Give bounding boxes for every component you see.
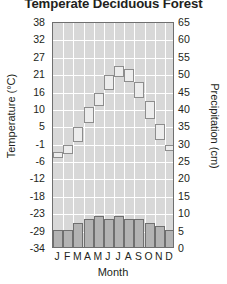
temperature-tick-label: 38 [33, 17, 45, 28]
month-label: S [133, 251, 143, 263]
precipitation-bar [165, 230, 174, 247]
precipitation-bar [84, 219, 94, 247]
temperature-tick-label: 5 [39, 121, 45, 132]
temperature-tick-label: 32 [33, 34, 45, 45]
month-label: J [52, 251, 62, 263]
temperature-tick-label: -1 [36, 139, 45, 150]
y-axis-title-precipitation: Precipitation (cm) [209, 66, 221, 186]
precipitation-tick-label: 55 [178, 52, 190, 63]
precipitation-bar [145, 223, 155, 247]
precipitation-tick-label: 5 [178, 226, 184, 237]
month-label: J [103, 251, 113, 263]
precipitation-bar [73, 223, 83, 247]
month-label: J [113, 251, 123, 263]
precipitation-bar [114, 216, 124, 247]
x-axis-title: Month [52, 266, 174, 278]
month-axis-labels: JFMAMJJASOND [52, 251, 174, 265]
precipitation-bar [124, 219, 134, 247]
temperature-tick-label: 27 [33, 52, 45, 63]
temperature-tick-label: -29 [30, 226, 45, 237]
precipitation-tick-label: 10 [178, 208, 190, 219]
month-label: F [62, 251, 72, 263]
temperature-tick-label: 10 [33, 104, 45, 115]
precipitation-axis-ticks: 65605550454035302520151050 [178, 0, 208, 284]
precipitation-bar [53, 230, 63, 247]
precipitation-bar [134, 219, 144, 247]
precipitation-bar [155, 226, 165, 247]
precipitation-bar [104, 219, 114, 247]
temperature-tick-label: 21 [33, 69, 45, 80]
precipitation-tick-label: 60 [178, 34, 190, 45]
temperature-tick-label: -23 [30, 208, 45, 219]
y-axis-title-temperature: Temperature (°C) [5, 56, 17, 176]
month-label: A [83, 251, 93, 263]
precipitation-tick-label: 40 [178, 104, 190, 115]
precipitation-tick-label: 0 [178, 243, 184, 254]
precipitation-tick-label: 25 [178, 156, 190, 167]
plot-area [52, 22, 174, 248]
month-label: N [154, 251, 164, 263]
precipitation-tick-label: 65 [178, 17, 190, 28]
precipitation-tick-label: 45 [178, 87, 190, 98]
temperature-tick-label: -12 [30, 173, 45, 184]
precipitation-bar [63, 230, 73, 247]
month-label: M [72, 251, 82, 263]
precipitation-tick-label: 50 [178, 69, 190, 80]
temperature-tick-label: 16 [33, 87, 45, 98]
precipitation-tick-label: 15 [178, 191, 190, 202]
temperature-tick-label: -34 [30, 243, 45, 254]
precipitation-tick-label: 35 [178, 121, 190, 132]
precipitation-series [53, 23, 173, 247]
climograph-figure: Temperate Deciduous Forest 3832272116105… [0, 0, 227, 284]
temperature-tick-label: -6 [36, 156, 45, 167]
month-label: M [93, 251, 103, 263]
precipitation-tick-label: 20 [178, 173, 190, 184]
month-label: A [123, 251, 133, 263]
temperature-tick-label: -18 [30, 191, 45, 202]
month-label: D [164, 251, 174, 263]
precipitation-tick-label: 30 [178, 139, 190, 150]
month-label: O [144, 251, 154, 263]
precipitation-bar [94, 216, 104, 247]
